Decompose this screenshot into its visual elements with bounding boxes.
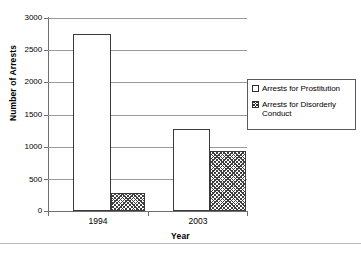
x-axis-title: Year [0, 231, 361, 241]
bar-2003-prostitution[interactable] [173, 129, 210, 211]
y-tick-label-500: 500 [8, 176, 42, 184]
bar-chart-figure: 3000 2500 2000 1500 1000 500 0 [0, 0, 361, 258]
bar-1994-disorderly-conduct[interactable] [111, 193, 145, 211]
bar-2003-disorderly-conduct[interactable] [210, 151, 246, 211]
y-tick-label-0: 0 [8, 207, 42, 215]
legend-item-disorderly-conduct[interactable]: Arrests for Disorderly Conduct [252, 100, 352, 119]
plot-area [48, 18, 247, 211]
y-tick-label-1000: 1000 [8, 143, 42, 151]
x-tick-mark-middle [148, 211, 149, 216]
x-tick-label-2003: 2003 [168, 216, 228, 226]
x-tick-mark-left [48, 211, 49, 216]
page-horizontal-rule [0, 243, 361, 244]
x-tick-label-1994: 1994 [68, 216, 128, 226]
legend-label-prostitution: Arrests for Prostitution [262, 84, 340, 94]
legend-swatch-open-square-icon [252, 85, 259, 92]
gridline-3000 [48, 18, 247, 19]
chart-legend: Arrests for Prostitution Arrests for Dis… [247, 79, 356, 130]
bar-1994-prostitution[interactable] [73, 34, 111, 211]
legend-swatch-hatched-square-icon [252, 101, 259, 108]
x-tick-mark-right [247, 211, 248, 216]
y-axis-title: Number of Arrests [8, 23, 18, 143]
y-tick-label-3000: 3000 [8, 14, 42, 22]
legend-label-disorderly-conduct: Arrests for Disorderly Conduct [262, 100, 352, 119]
legend-item-prostitution[interactable]: Arrests for Prostitution [252, 84, 352, 94]
